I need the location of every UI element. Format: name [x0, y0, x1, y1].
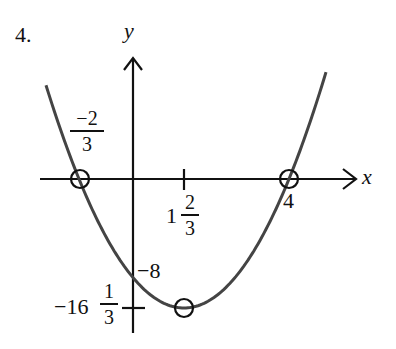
y-intercept-label: −8	[137, 260, 160, 282]
vertex-y-whole: −16	[54, 296, 88, 318]
vertex-x-frac: 2 3	[181, 192, 199, 238]
fraction-bar	[100, 303, 118, 305]
x-axis-label: x	[362, 166, 372, 188]
fraction-bar	[70, 130, 104, 132]
vertex-x-whole: 1	[166, 205, 177, 227]
vertex-x-den: 3	[185, 218, 195, 238]
vertex-x-num: 2	[185, 192, 195, 212]
root-left-den: 3	[82, 134, 92, 154]
fraction-bar	[181, 214, 199, 216]
vertex-y-num: 1	[104, 281, 114, 301]
problem-number: 4.	[15, 24, 32, 46]
vertex-y-den: 3	[104, 307, 114, 327]
root-left-label: −2 3	[70, 108, 104, 154]
root-right-label: 4	[283, 190, 294, 212]
y-axis-label: y	[124, 20, 134, 42]
vertex-y-frac: 1 3	[100, 281, 118, 327]
root-left-num: −2	[76, 108, 97, 128]
